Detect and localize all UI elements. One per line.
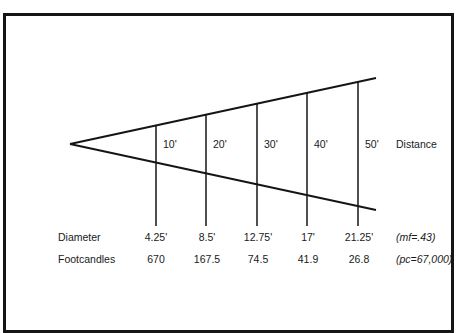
- footcandles-value-40ft: 41.9: [298, 253, 318, 265]
- cone-lower-edge: [70, 144, 376, 210]
- diameter-value-20ft: 8.5': [199, 231, 216, 243]
- footcandles-value-20ft: 167.5: [194, 253, 220, 265]
- footcandles-row-label: Footcandles: [58, 253, 115, 265]
- diameter-value-30ft: 12.75': [244, 231, 272, 243]
- distance-label-20ft: 20': [213, 138, 227, 150]
- distance-label-10ft: 10': [163, 138, 177, 150]
- distance-label-50ft: 50': [365, 138, 379, 150]
- footcandles-value-10ft: 670: [147, 253, 165, 265]
- distance-label-40ft: 40': [314, 138, 328, 150]
- diameter-value-50ft: 21.25': [345, 231, 373, 243]
- peak-candela-note: (pc=67,000): [396, 253, 452, 265]
- footcandles-value-30ft: 74.5: [248, 253, 268, 265]
- diameter-row-label: Diameter: [58, 231, 101, 243]
- diameter-value-40ft: 17': [301, 231, 315, 243]
- distance-label-30ft: 30': [264, 138, 278, 150]
- distance-axis-label: Distance: [396, 138, 437, 150]
- diameter-value-10ft: 4.25': [145, 231, 167, 243]
- cone-upper-edge: [70, 78, 376, 144]
- footcandles-value-50ft: 26.8: [349, 253, 369, 265]
- maintenance-factor-note: (mf=.43): [396, 231, 435, 243]
